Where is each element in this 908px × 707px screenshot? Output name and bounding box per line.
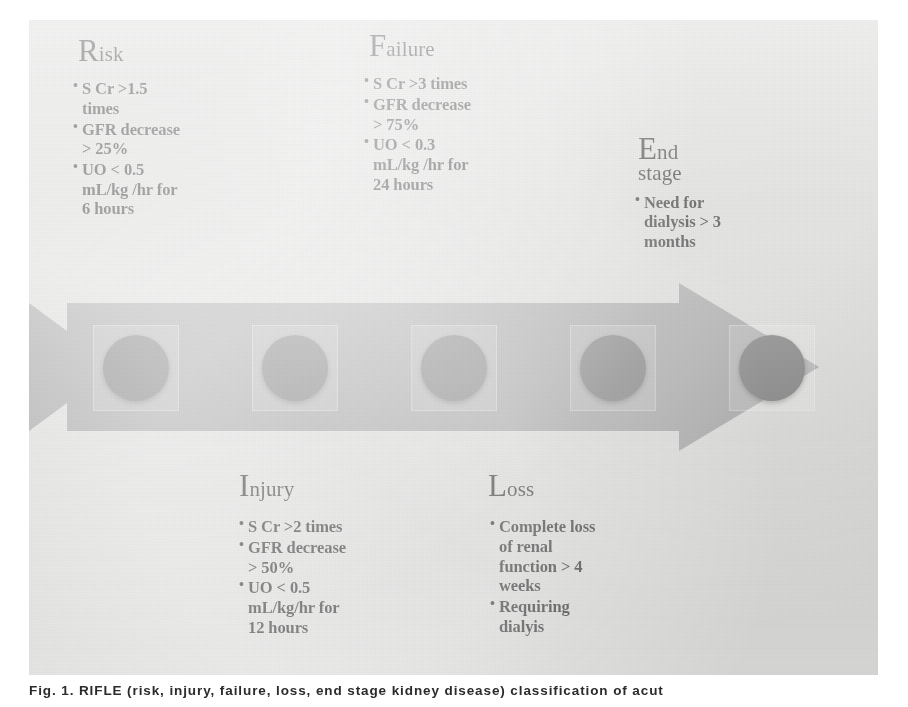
- bullet-item: S Cr >1.5 times: [73, 79, 187, 118]
- bullet-item: GFR decrease > 50%: [239, 538, 354, 577]
- stage-title-end-stage: End stage: [625, 135, 755, 185]
- marker-dot-icon: [739, 335, 805, 401]
- stage-bullets-risk: S Cr >1.5 times GFR decrease > 25% UO < …: [65, 79, 187, 218]
- bullet-item: UO < 0.5 mL/kg/hr for 12 hours: [239, 578, 354, 637]
- marker-dot-icon: [103, 335, 169, 401]
- stage-title-loss: Loss: [477, 472, 607, 500]
- stage-title-rest: njury: [249, 477, 294, 501]
- bullet-item: Complete loss of renal function > 4 week…: [490, 517, 607, 596]
- stage-title-second-word: stage: [638, 163, 755, 184]
- stage-block-loss: Loss Complete loss of renal function > 4…: [477, 472, 607, 636]
- bullet-item: GFR decrease > 75%: [364, 95, 482, 134]
- stage-title-rest: ailure: [386, 37, 434, 61]
- stage-title-rest: oss: [507, 477, 534, 501]
- figure-root: Risk S Cr >1.5 times GFR decrease > 25% …: [0, 0, 908, 707]
- scanned-figure-panel: Risk S Cr >1.5 times GFR decrease > 25% …: [29, 20, 878, 675]
- stage-block-end-stage: End stage Need for dialysis > 3 months: [625, 135, 755, 252]
- marker-dot-icon: [580, 335, 646, 401]
- bullet-item: S Cr >2 times: [239, 517, 354, 537]
- stage-title-failure: Failure: [358, 32, 482, 60]
- stage-block-injury: Injury S Cr >2 times GFR decrease > 50% …: [226, 472, 354, 637]
- stage-bullets-injury: S Cr >2 times GFR decrease > 50% UO < 0.…: [226, 517, 354, 637]
- bullet-item: S Cr >3 times: [364, 74, 482, 94]
- bullet-item: Need for dialysis > 3 months: [635, 193, 755, 252]
- figure-caption: Fig. 1. RIFLE (risk, injury, failure, lo…: [29, 682, 889, 700]
- stage-block-risk: Risk S Cr >1.5 times GFR decrease > 25% …: [65, 37, 187, 219]
- stage-title-injury: Injury: [226, 472, 354, 500]
- bullet-item: Requiring dialyis: [490, 597, 607, 636]
- stage-initial: I: [239, 468, 249, 503]
- stage-initial: L: [488, 468, 507, 503]
- stage-title-rest: isk: [99, 42, 124, 66]
- bullet-item: GFR decrease > 25%: [73, 120, 187, 159]
- stage-initial: F: [369, 28, 386, 63]
- marker-dot-icon: [421, 335, 487, 401]
- stage-bullets-failure: S Cr >3 times GFR decrease > 75% UO < 0.…: [358, 74, 482, 194]
- stage-block-failure: Failure S Cr >3 times GFR decrease > 75%…: [358, 32, 482, 194]
- stage-bullets-loss: Complete loss of renal function > 4 week…: [477, 517, 607, 636]
- stage-title-risk: Risk: [65, 37, 187, 65]
- stage-title-rest: nd: [657, 140, 678, 164]
- stage-initial: R: [78, 33, 99, 68]
- marker-dot-icon: [262, 335, 328, 401]
- bullet-item: UO < 0.3 mL/kg /hr for 24 hours: [364, 135, 482, 194]
- bullet-item: UO < 0.5 mL/kg /hr for 6 hours: [73, 160, 187, 219]
- stage-bullets-end-stage: Need for dialysis > 3 months: [625, 193, 755, 252]
